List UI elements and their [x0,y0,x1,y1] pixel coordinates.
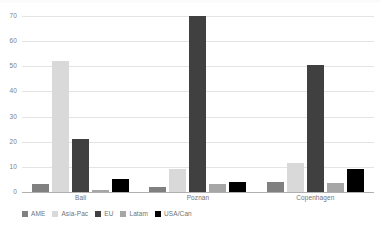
legend-swatch-icon-latam [120,211,126,217]
bar-group-bali [32,16,129,192]
legend-item-eu[interactable]: EU [95,210,113,217]
bar-poznan-asia-pac[interactable] [169,169,186,192]
legend-label-eu: EU [104,210,113,217]
gridline-0 [22,192,374,193]
x-axis-category-labels: BaliPoznanCopenhagen [22,194,374,202]
y-axis-tick-label: 60 [0,38,17,45]
legend-label-ame: AME [31,210,45,217]
y-axis-tick-label: 0 [0,189,17,196]
y-axis-tick-label: 20 [0,139,17,146]
bar-poznan-latam[interactable] [209,184,226,192]
bar-copenhagen-eu[interactable] [307,65,324,192]
legend-label-asia-pac: Asia-Pac [61,210,88,217]
bar-bali-asia-pac[interactable] [52,61,69,192]
legend-swatch-icon-ame [22,211,28,217]
legend-swatch-icon-eu [95,211,101,217]
y-axis-tick-label: 10 [0,164,17,171]
x-axis-label-poznan: Poznan [148,194,248,202]
y-axis-tick-label: 30 [0,114,17,121]
legend-label-usa-can: USA/Can [164,210,192,217]
x-axis-label-bali: Bali [31,194,131,202]
legend-item-usa-can[interactable]: USA/Can [155,210,192,217]
bar-bali-usa-can[interactable] [112,179,129,192]
legend-label-latam: Latam [129,210,148,217]
bar-bali-latam[interactable] [92,190,109,193]
top-edge-band [0,0,380,3]
bar-chart: 010203040506070 BaliPoznanCopenhagen AME… [0,0,380,228]
bar-copenhagen-asia-pac[interactable] [287,163,304,192]
y-axis-tick-label: 50 [0,63,17,70]
plot-area [22,16,374,192]
y-axis-tick-label: 40 [0,88,17,95]
legend-swatch-icon-asia-pac [52,211,58,217]
bar-copenhagen-usa-can[interactable] [347,169,364,192]
bar-poznan-eu[interactable] [189,16,206,192]
bar-group-poznan [149,16,246,192]
bar-copenhagen-latam[interactable] [327,183,344,192]
bar-copenhagen-ame[interactable] [267,182,284,192]
bar-bali-eu[interactable] [72,139,89,192]
bars-layer [22,16,374,192]
legend: AMEAsia-PacEULatamUSA/Can [22,210,192,217]
bar-poznan-ame[interactable] [149,187,166,192]
x-axis-label-copenhagen: Copenhagen [265,194,365,202]
bar-bali-ame[interactable] [32,184,49,192]
legend-item-latam[interactable]: Latam [120,210,148,217]
bar-poznan-usa-can[interactable] [229,182,246,192]
legend-swatch-icon-usa-can [155,211,161,217]
y-axis-tick-label: 70 [0,13,17,20]
legend-item-ame[interactable]: AME [22,210,45,217]
legend-item-asia-pac[interactable]: Asia-Pac [52,210,88,217]
bar-group-copenhagen [267,16,364,192]
